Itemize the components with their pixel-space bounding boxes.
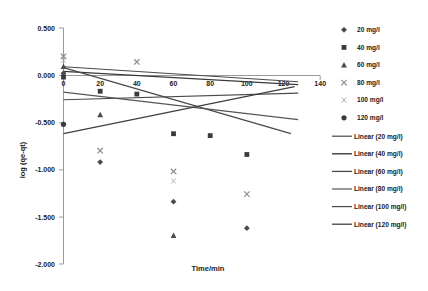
legend-line-label[interactable]: Linear (60 mg/l) (354, 168, 403, 176)
data-point (244, 152, 249, 157)
data-point-layer (61, 54, 250, 238)
data-point (171, 169, 176, 174)
data-point (341, 62, 347, 68)
x-tick-label: 0 (62, 80, 66, 87)
data-point (244, 225, 250, 231)
legend-line-label[interactable]: Linear (20 mg/l) (354, 133, 403, 141)
legend-line-label[interactable]: Linear (40 mg/l) (354, 150, 403, 158)
x-tick-label: 140 (314, 80, 326, 87)
data-point (341, 115, 346, 120)
data-point (97, 159, 103, 165)
data-point (208, 133, 213, 138)
data-point (171, 199, 177, 205)
series-60-mg-l (61, 64, 177, 238)
y-tick-label: -1.500 (35, 214, 55, 221)
data-point (134, 92, 139, 97)
data-point (97, 148, 102, 153)
x-tick-label: 80 (206, 80, 214, 87)
y-tick-label: -0.500 (35, 119, 55, 126)
data-point (171, 233, 177, 239)
data-point (61, 75, 66, 80)
x-tick-label: 20 (96, 80, 104, 87)
y-axis-title: log (qe-qt) (18, 141, 27, 178)
data-point (134, 59, 139, 64)
x-tick-label: 60 (170, 80, 178, 87)
data-point (341, 80, 346, 85)
legend-line-label[interactable]: Linear (100 mg/l) (354, 203, 406, 211)
legend-marker-label[interactable]: 60 mg/l (357, 61, 380, 69)
series-120-mg-l (61, 122, 66, 127)
data-point (342, 45, 347, 50)
legend-marker-label[interactable]: 20 mg/l (357, 26, 380, 34)
chart-axes (64, 28, 321, 264)
legend-marker-label[interactable]: 120 mg/l (357, 114, 384, 122)
legend-marker-label[interactable]: 40 mg/l (357, 44, 380, 52)
data-point (61, 122, 66, 127)
trendline-layer (64, 67, 299, 134)
legend-line-label[interactable]: Linear (80 mg/l) (354, 185, 403, 193)
y-tick-label: 0.000 (37, 72, 55, 79)
y-tick-label: -2.000 (35, 261, 55, 268)
legend-marker-label[interactable]: 80 mg/l (357, 79, 380, 87)
y-axis-ticks: 0.500 0.000 -0.500 -1.000 -1.500 -2.000 (35, 25, 63, 268)
data-point (244, 191, 249, 196)
data-point (97, 112, 103, 118)
data-point (341, 27, 347, 33)
chart-legend: 20 mg/l40 mg/l60 mg/l80 mg/l100 mg/l120 … (332, 26, 406, 229)
legend-marker-label[interactable]: 100 mg/l (357, 96, 384, 104)
series-40-mg-l (61, 75, 249, 157)
y-tick-label: -1.000 (35, 166, 55, 173)
y-tick-label: 0.500 (37, 25, 55, 32)
chart-figure: 0.500 0.000 -0.500 -1.000 -1.500 -2.000 … (0, 0, 428, 291)
data-point (171, 131, 176, 136)
x-tick-label: 40 (133, 80, 141, 87)
legend-line-label[interactable]: Linear (120 mg/l) (354, 221, 406, 229)
x-axis-title: Time/min (192, 264, 225, 273)
data-point (171, 178, 176, 183)
kinetics-scatter-chart: 0.500 0.000 -0.500 -1.000 -1.500 -2.000 … (0, 0, 428, 291)
data-point (98, 89, 103, 94)
data-point (342, 98, 347, 103)
